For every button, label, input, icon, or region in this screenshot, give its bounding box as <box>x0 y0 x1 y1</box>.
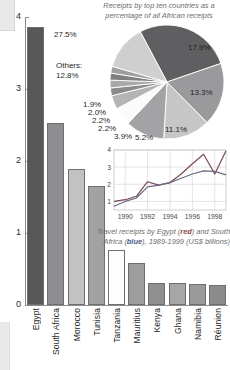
caption-text-1: Travel receipts by Egypt ( <box>97 227 180 236</box>
y-tick-label: 1 <box>0 227 21 237</box>
bar-namibia <box>189 284 206 305</box>
pie-label-9: 2.0% <box>88 108 106 117</box>
pie-others-value: 12.8% <box>56 71 79 80</box>
line-chart-x-tick-label: 1990 <box>118 213 133 220</box>
line-chart: 123419901992199419961998 Travel receipts… <box>95 146 230 266</box>
pie-label-7: 2.2% <box>98 124 116 133</box>
x-label-egypt: Egypt <box>31 308 41 330</box>
bar-south-africa <box>47 123 64 305</box>
pie-label-8: 2.2% <box>92 116 110 125</box>
pie-label-2: 17.9% <box>188 43 211 52</box>
pie-label-3: 13.3% <box>190 88 213 97</box>
line-chart-caption: Travel receipts by Egypt (red) and South… <box>97 227 230 246</box>
y-tick-label: 3 <box>0 83 21 93</box>
caption-text-4: ), 1989-1999 <box>142 237 184 246</box>
y-tick-label: 2 <box>0 155 21 165</box>
caption-blue-word: blue <box>127 237 142 246</box>
pie-chart-svg <box>108 23 226 141</box>
line-chart-y-tick-label: 3 <box>107 164 111 171</box>
x-label-tanzania: Tanzania <box>112 308 122 343</box>
line-chart-x-tick-label: 1992 <box>140 213 155 220</box>
x-label-namibia: Namibia <box>193 308 203 340</box>
bar-morocco <box>68 169 85 305</box>
pie-label-1: 27.5% <box>54 30 77 39</box>
caption-text-5: (US$ billions) <box>186 237 230 246</box>
line-chart-x-tick-label: 1996 <box>185 213 200 220</box>
bar-chart-x-axis <box>25 305 228 306</box>
x-label-kenya: Kenya <box>152 308 162 333</box>
pie-label-10: 1.9% <box>83 100 101 109</box>
infographic-figure: 01234 EgyptSouth AfricaMoroccoTunisiaTan… <box>0 0 230 370</box>
bar-réunion <box>209 285 226 305</box>
x-label-tunisia: Tunisia <box>92 308 102 336</box>
pie-chart-title: Receipts by top ten countries as a perce… <box>92 1 226 20</box>
bar-egypt <box>27 27 44 305</box>
pie-label-4: 11.1% <box>165 125 187 134</box>
y-tick-label: 4 <box>0 11 21 21</box>
y-tick-mark <box>25 305 29 306</box>
line-chart-svg: 123419901992199419961998 <box>95 146 228 228</box>
line-chart-y-tick-label: 2 <box>107 181 111 188</box>
caption-red-word: red <box>180 227 192 236</box>
x-label-south-africa: South Africa <box>51 308 61 355</box>
pie-label-others: Others:12.8% <box>56 61 82 81</box>
pie-label-5: 5.2% <box>135 133 153 142</box>
pie-others-title: Others: <box>56 61 82 70</box>
x-label-ghana: Ghana <box>173 308 183 334</box>
bar-kenya <box>148 283 165 305</box>
line-chart-x-tick-label: 1994 <box>162 213 177 220</box>
caption-text-2: ) and <box>192 227 209 236</box>
pie-chart: Receipts by top ten countries as a perce… <box>62 1 230 149</box>
bar-chart-x-labels: EgyptSouth AfricaMoroccoTunisiaTanzaniaM… <box>26 308 228 370</box>
x-label-réunion: Réunion <box>213 308 223 340</box>
y-tick-label: 0 <box>0 299 21 309</box>
x-label-morocco: Morocco <box>72 308 82 341</box>
bar-mauritius <box>128 263 145 305</box>
pie-label-6: 3.9% <box>114 132 132 141</box>
line-chart-x-tick-label: 1998 <box>207 213 222 220</box>
line-chart-y-tick-label: 1 <box>107 198 111 205</box>
x-label-mauritius: Mauritius <box>132 308 142 343</box>
bar-ghana <box>169 283 186 305</box>
line-chart-y-tick-label: 4 <box>107 146 111 153</box>
